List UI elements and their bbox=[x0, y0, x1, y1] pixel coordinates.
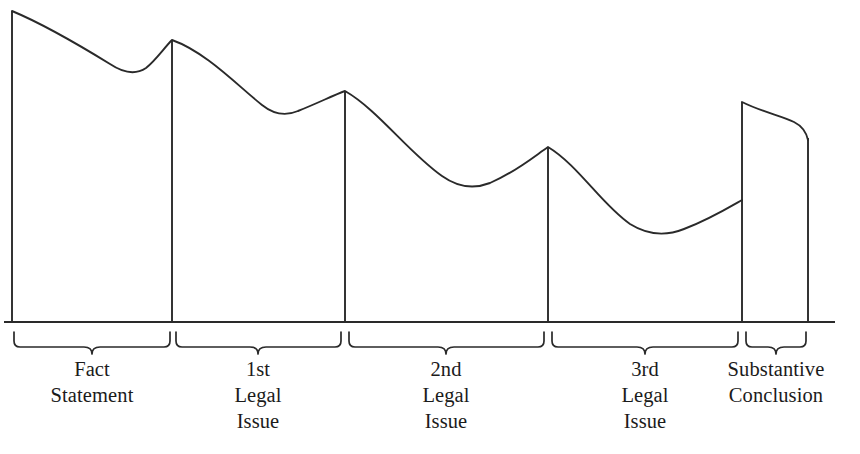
brace-third-legal-issue bbox=[552, 332, 738, 354]
conclusion-top-curve bbox=[742, 102, 808, 140]
segment-label-first-legal-issue: 1st Legal Issue bbox=[158, 356, 358, 434]
intensity-curve bbox=[12, 11, 742, 234]
segment-label-substantive-conclusion: Substantive Conclusion bbox=[666, 356, 860, 408]
brace-second-legal-issue bbox=[349, 332, 544, 354]
segment-label-second-legal-issue: 2nd Legal Issue bbox=[346, 356, 546, 434]
brace-first-legal-issue bbox=[176, 332, 341, 354]
brace-fact-statement bbox=[14, 332, 170, 354]
brace-substantive-conclusion bbox=[746, 332, 806, 354]
